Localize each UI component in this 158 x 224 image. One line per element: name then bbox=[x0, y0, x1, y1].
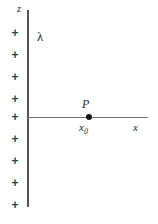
plus-charge-icon: + bbox=[9, 111, 21, 123]
field-point-label: P bbox=[82, 99, 89, 110]
plus-charge-icon: + bbox=[9, 49, 21, 61]
plus-charge-icon: + bbox=[9, 177, 21, 189]
physics-figure: + + + + + + + + + z λ P x x0 bbox=[0, 0, 158, 224]
x0-subscript: 0 bbox=[84, 127, 88, 136]
x-axis-label: x bbox=[133, 122, 138, 133]
charged-line bbox=[27, 10, 29, 207]
plus-charge-icon: + bbox=[9, 199, 21, 211]
plus-charge-icon: + bbox=[9, 133, 21, 145]
plus-charge-icon: + bbox=[9, 93, 21, 105]
x0-coordinate-label: x0 bbox=[79, 122, 88, 136]
plus-charge-icon: + bbox=[9, 27, 21, 39]
field-point-marker bbox=[86, 114, 92, 120]
plus-charge-icon: + bbox=[9, 71, 21, 83]
lambda-label: λ bbox=[37, 31, 43, 42]
z-axis-label: z bbox=[17, 3, 21, 14]
plus-charge-icon: + bbox=[9, 155, 21, 167]
